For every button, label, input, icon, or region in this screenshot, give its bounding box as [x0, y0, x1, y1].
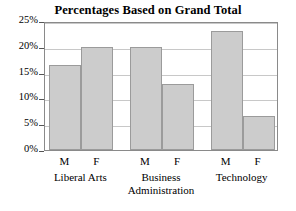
y-axis-tick-label: 5% — [24, 117, 38, 128]
chart-container: Percentages Based on Grand Total 25%20%1… — [0, 0, 296, 211]
x-axis-sublabel: F — [242, 155, 274, 167]
x-axis-group-label-line: Administration — [121, 184, 202, 197]
bar — [162, 84, 194, 150]
x-axis-sublabel: F — [161, 155, 193, 167]
bar — [130, 47, 162, 150]
bars-layer — [45, 23, 277, 150]
x-axis-sublabel: F — [80, 155, 112, 167]
y-axis-tick-label: 20% — [19, 40, 38, 51]
x-axis: MFMFMFLiberal ArtsBusinessAdministration… — [44, 151, 278, 211]
x-axis-group-label: Liberal Arts — [40, 171, 121, 184]
y-axis-tick-label: 25% — [19, 14, 38, 25]
x-axis-sublabel: M — [129, 155, 161, 167]
chart-title: Percentages Based on Grand Total — [0, 3, 296, 18]
y-axis-tick-label: 15% — [19, 66, 38, 77]
x-axis-sublabel: M — [48, 155, 80, 167]
y-axis: 25%20%15%10%5%0% — [0, 22, 44, 151]
x-axis-sublabel: M — [210, 155, 242, 167]
bar — [243, 116, 275, 150]
x-axis-group-label-line: Technology — [201, 171, 282, 184]
x-axis-group-label-line: Liberal Arts — [40, 171, 121, 184]
x-axis-group-label: Technology — [201, 171, 282, 184]
x-axis-group-label-line: Business — [121, 171, 202, 184]
bar — [211, 31, 243, 150]
y-axis-tick-label: 0% — [24, 143, 38, 154]
x-axis-group-label: BusinessAdministration — [121, 171, 202, 196]
bar — [81, 47, 113, 150]
bar — [49, 65, 81, 150]
plot-area — [44, 22, 278, 151]
y-axis-tick-label: 10% — [19, 91, 38, 102]
